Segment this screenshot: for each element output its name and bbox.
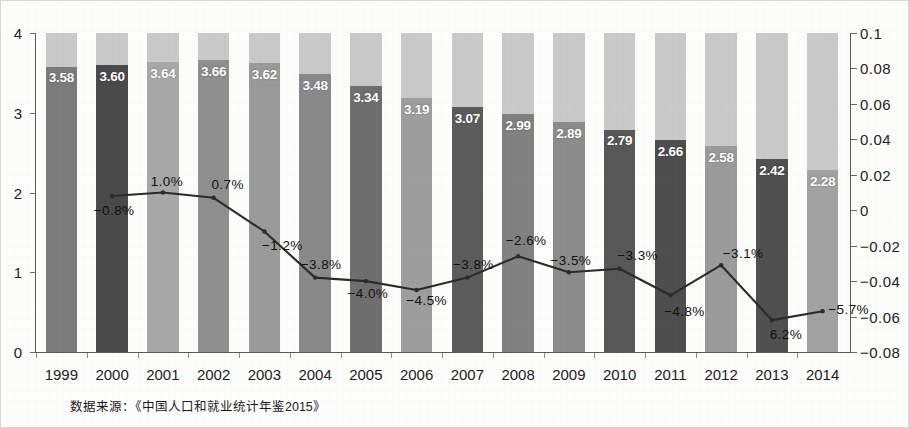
- x-axis-year-label: 2010: [603, 366, 636, 383]
- x-axis-year-label: 1999: [45, 366, 78, 383]
- growth-rate-data-label: −3.8%: [453, 256, 494, 271]
- right-axis-tick: [851, 68, 857, 69]
- x-axis-tick: [138, 353, 139, 358]
- growth-rate-data-label: −3.5%: [551, 253, 592, 268]
- source-note: 数据来源：《中国人口和就业统计年鉴2015》: [70, 396, 326, 415]
- right-axis-tick-label: 0.04: [860, 131, 891, 148]
- growth-rate-data-label: −3.1%: [723, 246, 764, 261]
- right-axis-tick: [851, 175, 857, 176]
- x-axis-tick: [645, 353, 646, 358]
- right-axis-tick-label: −0.08: [860, 344, 900, 361]
- growth-rate-data-label: −5.7%: [828, 302, 869, 317]
- left-axis-tick-label: 4: [0, 25, 22, 42]
- right-axis-tick: [851, 139, 857, 140]
- x-axis-year-label: 2005: [349, 366, 382, 383]
- x-axis-year-label: 2012: [704, 366, 737, 383]
- growth-rate-data-label: −3.3%: [617, 247, 658, 262]
- x-axis-year-label: 2006: [400, 366, 433, 383]
- right-axis-tick: [851, 246, 857, 247]
- right-axis-tick: [851, 210, 857, 211]
- left-axis-tick-label: 3: [0, 104, 22, 121]
- right-axis-tick: [851, 33, 857, 34]
- growth-rate-point: [161, 190, 165, 194]
- right-axis-tick-label: 0.08: [860, 60, 891, 77]
- x-axis-year-label: 2014: [806, 366, 839, 383]
- growth-rate-point: [262, 229, 266, 233]
- growth-rate-point: [820, 309, 824, 313]
- growth-rate-point: [719, 263, 723, 267]
- x-axis-tick: [493, 353, 494, 358]
- x-axis-year-label: 2002: [197, 366, 230, 383]
- right-axis-tick-label: 0.1: [860, 25, 882, 42]
- chart-figure: 01234 −0.08−0.06−0.04−0.0200.020.040.060…: [0, 0, 909, 428]
- x-axis-year-label: 2001: [146, 366, 179, 383]
- left-axis-tick-label: 0: [0, 344, 22, 361]
- growth-rate-point: [465, 275, 469, 279]
- growth-rate-data-label: −3.8%: [301, 256, 342, 271]
- x-axis-tick: [188, 353, 189, 358]
- growth-rate-point: [516, 254, 520, 258]
- x-axis-tick: [239, 353, 240, 358]
- growth-rate-point: [211, 196, 215, 200]
- growth-rate-data-label: 0.7%: [211, 176, 243, 191]
- x-axis-tick: [442, 353, 443, 358]
- growth-rate-point: [617, 267, 621, 271]
- right-axis-tick-label: −0.02: [860, 237, 900, 254]
- growth-rate-data-label: −1.2%: [262, 238, 303, 253]
- x-axis-year-label: 2004: [298, 366, 331, 383]
- x-axis-year-label: 2007: [451, 366, 484, 383]
- x-axis-tick: [391, 353, 392, 358]
- right-axis-tick-label: −0.04: [860, 273, 900, 290]
- right-axis-tick: [851, 104, 857, 105]
- left-axis-tick-label: 1: [0, 264, 22, 281]
- right-axis-tick-label: 0: [860, 202, 869, 219]
- right-axis-tick: [851, 281, 857, 282]
- growth-rate-point: [313, 275, 317, 279]
- x-axis-year-label: 2011: [654, 366, 686, 383]
- x-axis-year-label: 2003: [248, 366, 281, 383]
- x-axis-tick: [797, 353, 798, 358]
- growth-rate-data-label: 6.2%: [770, 327, 802, 342]
- growth-rate-point: [364, 279, 368, 283]
- x-axis-tick: [290, 353, 291, 358]
- growth-rate-point: [567, 270, 571, 274]
- x-axis-tick: [696, 353, 697, 358]
- growth-rate-point: [110, 194, 114, 198]
- right-axis-tick-label: 0.02: [860, 166, 891, 183]
- x-axis-tick: [594, 353, 595, 358]
- growth-rate-data-label: 1.0%: [151, 173, 183, 188]
- x-axis-tick: [544, 353, 545, 358]
- x-axis-tick: [87, 353, 88, 358]
- x-axis-tick: [36, 353, 37, 358]
- x-axis-year-label: 2013: [755, 366, 788, 383]
- left-axis-tick-label: 2: [0, 184, 22, 201]
- growth-rate-data-label: −0.8%: [94, 203, 135, 218]
- x-axis-year-label: 2000: [95, 366, 128, 383]
- growth-rate-data-label: −4.0%: [348, 286, 389, 301]
- growth-rate-data-label: −2.6%: [506, 233, 547, 248]
- x-axis-year-label: 2009: [552, 366, 585, 383]
- growth-rate-data-label: −4.5%: [406, 292, 447, 307]
- right-axis-tick-label: 0.06: [860, 95, 891, 112]
- x-axis-tick: [341, 353, 342, 358]
- x-axis-year-label: 2008: [501, 366, 534, 383]
- right-axis-tick: [851, 352, 857, 353]
- growth-rate-point: [668, 293, 672, 297]
- growth-rate-point: [770, 318, 774, 322]
- x-axis-line: [35, 352, 851, 353]
- growth-rate-data-label: −4.8%: [664, 304, 705, 319]
- x-axis-tick: [747, 353, 748, 358]
